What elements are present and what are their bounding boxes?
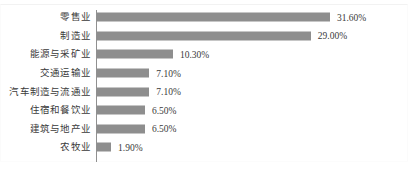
category-label: 制造业 [0,30,91,42]
bar-row: 能源与采矿业 10.30% [0,45,408,64]
bar-row: 汽车制造与流通业 7.10% [0,82,408,101]
bar-rect[interactable] [97,124,145,133]
bar-row: 住宿和餐饮业 6.50% [0,101,408,120]
bar-value-label: 6.50% [152,123,177,135]
category-label: 能源与采矿业 [0,48,91,60]
bar-track: 31.60% [97,13,366,22]
bar-chart-figure: 零售业 31.60% 制造业 29.00% 能源与采矿业 10.30% [0,0,408,178]
category-label: 农牧业 [0,141,91,153]
bar-row: 交通运输业 7.10% [0,64,408,83]
bar-value-label: 6.50% [152,104,177,116]
bar-value-label: 29.00% [318,30,347,42]
bar-value-label: 10.30% [180,48,209,60]
category-label: 零售业 [0,11,91,23]
bar-value-label: 7.10% [156,86,181,98]
category-label: 住宿和餐饮业 [0,104,91,116]
bar-value-label: 1.90% [118,141,143,153]
bar-rect[interactable] [97,87,149,96]
bar-value-label: 31.60% [337,11,366,23]
bar-track: 6.50% [97,106,176,115]
category-label: 交通运输业 [0,67,91,79]
bar-track: 10.30% [97,50,209,59]
category-label: 建筑与地产业 [0,123,91,135]
bar-track: 7.10% [97,69,181,78]
bar-track: 1.90% [97,143,143,152]
bar-track: 7.10% [97,87,181,96]
bar-row: 建筑与地产业 6.50% [0,120,408,139]
category-label: 汽车制造与流通业 [0,86,91,98]
bar-track: 29.00% [97,31,347,40]
bar-rect[interactable] [97,143,111,152]
bar-rect[interactable] [97,13,330,22]
bar-rect[interactable] [97,50,173,59]
bar-row: 农牧业 1.90% [0,138,408,157]
bar-row: 零售业 31.60% [0,8,408,27]
bar-rect[interactable] [97,69,149,78]
bar-rect[interactable] [97,106,145,115]
plot-area: 零售业 31.60% 制造业 29.00% 能源与采矿业 10.30% [0,8,408,166]
bar-rect[interactable] [97,31,311,40]
bar-track: 6.50% [97,124,176,133]
bar-series: 零售业 31.60% 制造业 29.00% 能源与采矿业 10.30% [0,8,408,157]
bar-value-label: 7.10% [156,67,181,79]
bar-row: 制造业 29.00% [0,27,408,46]
